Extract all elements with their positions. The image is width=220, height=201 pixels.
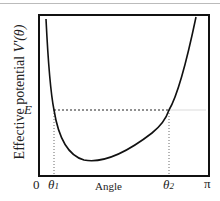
x-tick-pi: π <box>204 176 211 192</box>
energy-tick-label: E <box>24 102 32 118</box>
y-axis-label: Effective potential V'(θ) <box>12 12 28 172</box>
potential-curve <box>46 17 196 161</box>
x-tick-zero: 0 <box>33 177 40 193</box>
x-tick-theta1: θ1 <box>48 177 59 193</box>
x-tick-theta2: θ2 <box>163 177 174 193</box>
x-axis-label: Angle <box>95 180 122 192</box>
plot-area <box>0 0 220 201</box>
